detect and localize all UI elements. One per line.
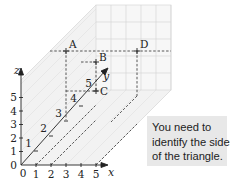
svg-text:5: 5 [10,91,17,103]
svg-text:2: 2 [48,168,55,180]
x-tick-labels: 0 1 2 3 4 5 [20,167,100,180]
z-tick-labels: 0 1 2 3 4 5 [10,91,17,171]
svg-text:3: 3 [55,107,62,119]
svg-text:2: 2 [10,132,17,144]
svg-text:3: 3 [10,118,17,130]
callout-box: You need to identify the sides of the tr… [147,116,227,166]
y-axis-label: y [102,70,110,83]
svg-text:3: 3 [63,168,70,180]
callout-line-1: You need to [152,120,227,135]
svg-text:1: 1 [25,137,32,149]
point-d-label: D [140,38,148,50]
svg-text:1: 1 [10,145,17,157]
svg-text:0: 0 [10,159,17,171]
svg-text:1: 1 [33,168,40,180]
svg-text:0: 0 [20,167,27,179]
svg-text:2: 2 [40,122,47,134]
x-axis-label: x [108,166,115,179]
point-c-label: C [100,85,108,97]
point-b-label: B [99,51,107,63]
svg-text:4: 4 [70,92,77,104]
svg-text:5: 5 [85,77,92,89]
callout-line-3: of the triangle. [152,149,227,164]
x-axis-arrow-icon [101,163,108,168]
point-a-label: A [68,38,77,50]
svg-text:4: 4 [78,168,85,180]
z-axis-label: z [13,64,20,77]
svg-text:5: 5 [93,168,100,180]
callout-line-2: identify the sides [152,135,227,150]
svg-text:4: 4 [10,105,17,117]
